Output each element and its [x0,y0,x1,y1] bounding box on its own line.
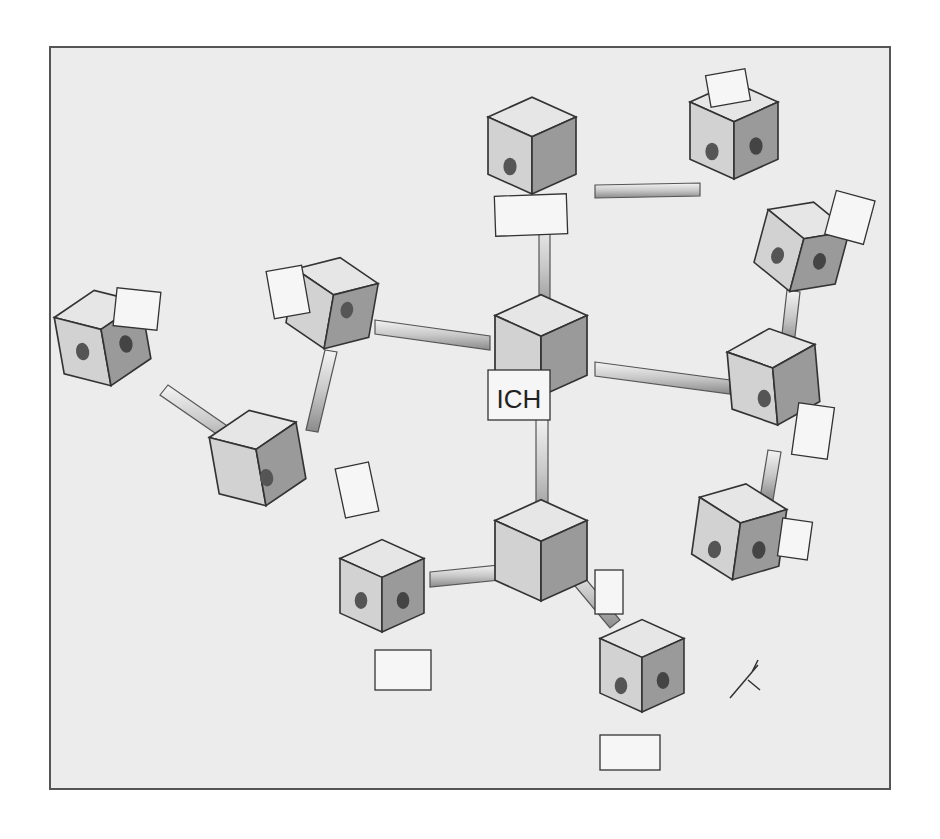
cube-network-illustration: ICH [0,0,940,839]
center-label: ICH [497,384,542,414]
artist-mark [730,660,760,698]
